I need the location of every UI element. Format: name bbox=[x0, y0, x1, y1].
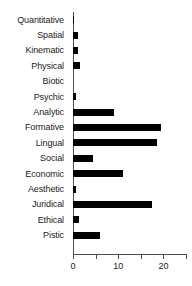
bar-row: Biotic bbox=[0, 74, 192, 89]
bar-row: Formative bbox=[0, 120, 192, 135]
category-label: Formative bbox=[0, 122, 64, 132]
bar bbox=[73, 216, 79, 223]
category-label: Aesthetic bbox=[0, 184, 64, 194]
category-label: Economic bbox=[0, 169, 64, 179]
bar-track bbox=[73, 181, 192, 196]
category-label: Physical bbox=[0, 61, 64, 71]
bar-row: Aesthetic bbox=[0, 181, 192, 196]
bar-track bbox=[73, 151, 192, 166]
bar-track bbox=[73, 58, 192, 73]
bar-track bbox=[73, 27, 192, 42]
x-axis-line bbox=[73, 254, 186, 255]
bar-track bbox=[73, 12, 192, 27]
x-axis-tick bbox=[141, 254, 142, 259]
bar bbox=[73, 124, 161, 131]
x-axis-tick-label: 20 bbox=[158, 261, 168, 271]
x-axis-tick bbox=[118, 254, 119, 259]
bar-track bbox=[73, 212, 192, 227]
bar-row: Social bbox=[0, 151, 192, 166]
category-label: Biotic bbox=[0, 76, 64, 86]
bar-row: Analytic bbox=[0, 104, 192, 119]
bar-rows: QuantitativeSpatialKinematicPhysicalBiot… bbox=[0, 12, 192, 243]
bar-track bbox=[73, 227, 192, 242]
bar-row: Lingual bbox=[0, 135, 192, 150]
category-label: Spatial bbox=[0, 30, 64, 40]
bar bbox=[73, 109, 114, 116]
bar bbox=[73, 170, 123, 177]
bar-track bbox=[73, 104, 192, 119]
x-axis-tick bbox=[163, 254, 164, 259]
plot-area: QuantitativeSpatialKinematicPhysicalBiot… bbox=[0, 0, 192, 286]
category-label: Pistic bbox=[0, 230, 64, 240]
bar-track bbox=[73, 43, 192, 58]
bar-row: Quantitative bbox=[0, 12, 192, 27]
bar-row: Juridical bbox=[0, 197, 192, 212]
horizontal-bar-chart: QuantitativeSpatialKinematicPhysicalBiot… bbox=[0, 0, 192, 286]
bar bbox=[73, 155, 93, 162]
bar-row: Pistic bbox=[0, 227, 192, 242]
bar-track bbox=[73, 166, 192, 181]
bar-row: Physical bbox=[0, 58, 192, 73]
bar-track bbox=[73, 89, 192, 104]
category-label: Social bbox=[0, 153, 64, 163]
category-label: Kinematic bbox=[0, 45, 64, 55]
x-axis-tick bbox=[96, 254, 97, 259]
bar-track bbox=[73, 135, 192, 150]
bar-row: Ethical bbox=[0, 212, 192, 227]
bar bbox=[73, 139, 157, 146]
x-axis-tick bbox=[73, 254, 74, 259]
bar-row: Economic bbox=[0, 166, 192, 181]
bar bbox=[73, 47, 78, 54]
bar-track bbox=[73, 120, 192, 135]
bar-track bbox=[73, 74, 192, 89]
bar-row: Spatial bbox=[0, 27, 192, 42]
bar bbox=[73, 32, 78, 39]
bar bbox=[73, 201, 152, 208]
category-label: Juridical bbox=[0, 199, 64, 209]
bar bbox=[73, 186, 76, 193]
bar bbox=[73, 16, 74, 23]
x-axis-tick-label: 10 bbox=[113, 261, 123, 271]
bar bbox=[73, 62, 80, 69]
bar-track bbox=[73, 197, 192, 212]
category-label: Lingual bbox=[0, 138, 64, 148]
bar bbox=[73, 232, 100, 239]
bar-row: Kinematic bbox=[0, 43, 192, 58]
bar-row: Psychic bbox=[0, 89, 192, 104]
category-label: Quantitative bbox=[0, 15, 64, 25]
x-axis-tick bbox=[186, 254, 187, 259]
category-label: Psychic bbox=[0, 92, 64, 102]
category-label: Ethical bbox=[0, 215, 64, 225]
bar bbox=[73, 93, 76, 100]
x-axis-tick-label: 0 bbox=[70, 261, 75, 271]
category-label: Analytic bbox=[0, 107, 64, 117]
